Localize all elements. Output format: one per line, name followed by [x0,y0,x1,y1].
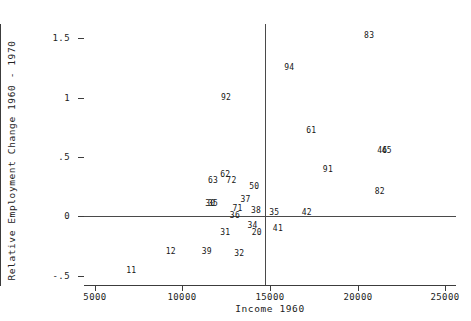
y-tick-label-1: 1 [24,94,70,103]
data-point-label-82: 82 [375,188,385,196]
data-point-label-72: 72 [226,177,236,185]
y-tick-label-1.5: 1.5 [24,34,70,43]
data-point-label-20: 20 [252,229,262,237]
x-tick-label-15000: 15000 [240,293,300,302]
data-point-label-12: 12 [166,248,176,256]
x-tick-label-25000: 25000 [415,293,471,302]
data-point-label-94: 94 [284,64,294,72]
x-tick-10000 [182,285,183,291]
data-point-label-91: 91 [323,166,333,174]
data-point-label-39: 39 [202,248,212,256]
data-point-label-61: 61 [306,127,316,135]
x-tick-label-20000: 20000 [328,293,388,302]
data-point-label-63: 63 [208,177,218,185]
data-point-label-11: 11 [126,267,136,275]
y-axis-spine [0,24,1,286]
data-point-label-50: 50 [249,183,259,191]
y-tick-label-.5: .5 [24,153,70,162]
y-tick-label-0: 0 [24,212,70,221]
x-tick-20000 [358,285,359,291]
data-point-label-36: 36 [230,212,240,220]
data-point-label-42: 42 [302,209,312,217]
reference-line-vertical [265,24,266,285]
y-tick-label--.5: -.5 [24,272,70,281]
scatter-plot-figure: Relative Employment Change 1960 - 1970 I… [0,0,471,321]
data-point-label-32: 32 [234,250,244,258]
data-point-label-38: 38 [251,207,261,215]
x-axis-title: Income 1960 [84,303,456,314]
data-point-label-83: 83 [364,32,374,40]
x-tick-label-10000: 10000 [152,293,212,302]
data-point-label-35: 35 [269,209,279,217]
data-point-label-45: 45 [382,147,392,155]
y-tick--.5 [78,276,84,277]
data-point-label-92: 92 [221,94,231,102]
x-tick-label-5000: 5000 [65,293,125,302]
data-point-label-37: 37 [240,196,250,204]
y-tick-1.5 [78,38,84,39]
data-point-label-35: 35 [208,200,218,208]
y-tick-1 [78,98,84,99]
data-point-label-31: 31 [220,229,230,237]
x-tick-15000 [270,285,271,291]
x-tick-5000 [95,285,96,291]
y-axis-title: Relative Employment Change 1960 - 1970 [0,0,22,321]
x-tick-25000 [445,285,446,291]
data-point-label-41: 41 [273,225,283,233]
y-tick-.5 [78,157,84,158]
